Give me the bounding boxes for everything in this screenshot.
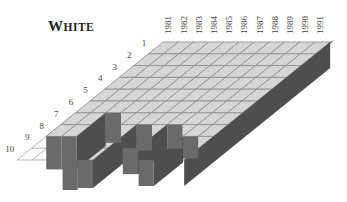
row-label: 1 — [142, 38, 147, 48]
block-front-face — [167, 125, 182, 149]
row-label: 4 — [98, 73, 103, 83]
row-label: 6 — [69, 97, 74, 107]
block-front-face — [63, 160, 78, 190]
row-label: 3 — [113, 62, 118, 72]
row-label: 2 — [127, 50, 132, 60]
block-front-face — [106, 113, 121, 143]
year-label: 1985 — [224, 16, 234, 35]
block-front-face — [123, 148, 138, 174]
year-label: 1991 — [315, 16, 325, 34]
block-front-face — [46, 136, 61, 169]
year-label: 1981 — [163, 16, 173, 34]
year-label: 1988 — [270, 16, 280, 35]
isometric-grid-chart: 1981198219831984198519861987198819891990… — [0, 0, 347, 202]
year-label: 1990 — [300, 16, 310, 35]
year-label: 1987 — [255, 16, 265, 35]
row-label: 5 — [83, 85, 88, 95]
row-label: 7 — [54, 109, 59, 119]
block-front-face — [78, 160, 93, 188]
row-label: 8 — [40, 121, 45, 131]
row-label: 10 — [5, 144, 15, 154]
year-label: 1982 — [179, 16, 189, 34]
year-label: 1986 — [239, 16, 249, 34]
year-label: 1983 — [194, 16, 204, 35]
row-label: 9 — [25, 132, 30, 142]
block-front-face — [137, 125, 152, 151]
block-front-face — [183, 136, 198, 158]
block-front-face — [139, 160, 154, 186]
year-labels: 1981198219831984198519861987198819891990… — [163, 16, 325, 35]
year-label: 1984 — [209, 16, 219, 35]
grid-blocks — [46, 40, 334, 190]
year-label: 1989 — [285, 16, 295, 35]
